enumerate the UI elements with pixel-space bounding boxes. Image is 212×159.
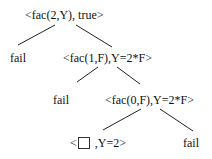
success-leaf-node: < ,Y=2> [70, 136, 126, 150]
edge-n2-fail3 [160, 109, 193, 131]
fac1-node: <fac(1,F),Y=2*F> [63, 51, 152, 65]
edge-root-fail1 [18, 25, 55, 45]
fac0-node: <fac(0,F),Y=2*F> [105, 93, 194, 107]
edge-n1-n2 [117, 67, 140, 84]
fail-node-1: fail [10, 51, 26, 65]
edge-root-n1 [76, 25, 112, 47]
edge-n1-fail2 [77, 67, 98, 82]
fail-node-2: fail [53, 93, 69, 107]
edge-n2-leaf [103, 109, 141, 130]
fail-node-3: fail [183, 136, 199, 150]
root-node: <fac(2,Y), true> [25, 8, 104, 22]
empty-goal-box-icon [78, 137, 90, 149]
leaf-prefix: < [70, 136, 77, 150]
search-tree-diagram: <fac(2,Y), true> fail <fac(1,F),Y=2*F> f… [0, 0, 212, 159]
leaf-suffix: ,Y=2> [92, 136, 126, 150]
